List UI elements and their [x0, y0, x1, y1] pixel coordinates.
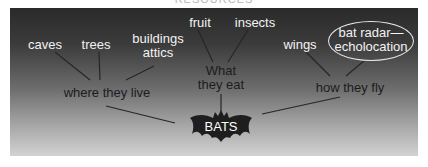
node-fruit: fruit	[189, 16, 211, 30]
cutoff-header-text: RESOURCES	[175, 0, 254, 5]
line-wings-how	[306, 52, 330, 76]
line-radar-how	[346, 60, 365, 76]
node-buildings-attics: buildings attics	[132, 32, 183, 60]
line-attics-where	[126, 66, 154, 80]
line-fruit-what	[198, 30, 213, 62]
line-insects-what	[228, 30, 248, 62]
top-strip: RESOURCES	[0, 0, 428, 8]
line-trees-where	[99, 52, 100, 80]
node-bat-radar: bat radar— echolocation	[335, 26, 408, 54]
node-what-line2: they eat	[198, 78, 244, 92]
node-buildings-line1: buildings	[132, 32, 183, 46]
node-what-line1: What	[198, 64, 244, 78]
node-radar-line2: echolocation	[335, 40, 408, 54]
node-caves: caves	[28, 38, 62, 52]
node-insects: insects	[235, 16, 275, 30]
node-radar-line1: bat radar—	[335, 26, 408, 40]
node-trees: trees	[82, 38, 111, 52]
node-what-they-eat: What they eat	[198, 64, 244, 92]
node-wings: wings	[283, 38, 316, 52]
concept-map-panel: caves trees buildings attics fruit insec…	[10, 8, 418, 156]
node-how-they-fly: how they fly	[316, 81, 385, 95]
node-where-they-live: where they live	[64, 86, 151, 100]
line-how-bats	[262, 97, 340, 114]
node-buildings-line2: attics	[132, 46, 183, 60]
line-where-bats	[106, 106, 175, 123]
line-caves-where	[55, 52, 90, 80]
center-node-bats: BATS	[205, 120, 238, 134]
